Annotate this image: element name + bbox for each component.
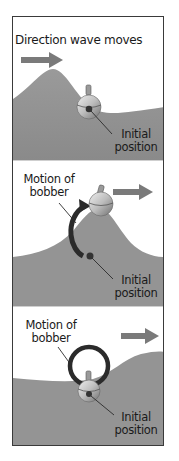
direction-arrow-icon xyxy=(113,184,153,200)
bobber-icon xyxy=(89,185,113,216)
motion-leader-line-icon xyxy=(59,203,76,223)
bobber-icon xyxy=(77,85,101,119)
panel-title: Direction wave moves xyxy=(15,34,142,47)
motion-label-line2: bobber xyxy=(19,186,79,199)
initial-label-line2: position xyxy=(111,141,161,154)
motion-label-line2: bobber xyxy=(21,332,81,345)
initial-label-line2: position xyxy=(111,287,161,300)
panel-1: Direction wave moves Initial position xyxy=(13,17,163,160)
motion-of-bobber-label: Motion of bobber xyxy=(19,173,79,199)
motion-leader-line-icon xyxy=(58,347,71,365)
panel-3: Motion of bobber Initial position xyxy=(13,307,163,446)
motion-of-bobber-label: Motion of bobber xyxy=(21,319,81,345)
panel-2: Motion of bobber Initial position xyxy=(13,161,163,306)
initial-position-label: Initial position xyxy=(111,274,161,300)
initial-position-label: Initial position xyxy=(111,128,161,154)
diagram-frame: Direction wave moves Initial position xyxy=(12,16,164,446)
bobber-icon xyxy=(78,371,100,402)
initial-position-label: Initial position xyxy=(111,411,161,437)
direction-arrow-icon xyxy=(21,52,63,68)
direction-arrow-icon xyxy=(121,328,159,344)
initial-label-line2: position xyxy=(111,424,161,437)
